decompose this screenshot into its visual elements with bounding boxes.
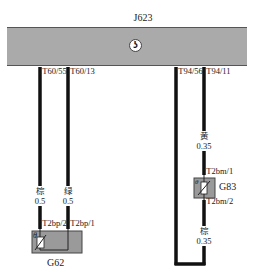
pin-label-t2bm-1: ↑T2bm/1 <box>202 167 233 176</box>
wire-color: 黄 <box>194 131 214 141</box>
wire-gauge: 0.35 <box>194 141 214 151</box>
wire-gauge: 0.5 <box>60 196 76 206</box>
thermistor-symbol: θ <box>195 178 198 186</box>
wire-color: 绿 <box>60 186 76 196</box>
component-label-g83: G83 <box>219 181 236 192</box>
wire-label-4: 棕 0.35 <box>194 226 214 246</box>
pin-label-t94-11: ↓T94/11 <box>202 67 231 76</box>
thermistor-symbol: θ <box>33 231 37 240</box>
pin-label-t2bp-1: ↑T2bp/1 <box>66 219 95 228</box>
wire-color: 棕 <box>194 226 214 236</box>
wire-gauge: 0.5 <box>32 196 48 206</box>
wire-label-3: 黄 0.35 <box>194 131 214 151</box>
pin-label-t60-13: ↓T60/13 <box>66 67 95 76</box>
pin-label-t2bp-2: ↑T2bp/2 <box>38 219 67 228</box>
pin-label-t94-56: ↓T94/56 <box>174 67 203 76</box>
wire-label-2: 绿 0.5 <box>60 186 76 206</box>
component-label-g62: G62 <box>47 257 64 268</box>
wire-gauge: 0.35 <box>194 236 214 246</box>
wiring-lines <box>0 0 262 276</box>
pin-label-t2bm-2: ↓T2bm/2 <box>202 197 233 206</box>
wire-color: 棕 <box>32 186 48 196</box>
pin-label-t60-55: ↓T60/55 <box>38 67 67 76</box>
wire-label-1: 棕 0.5 <box>32 186 48 206</box>
